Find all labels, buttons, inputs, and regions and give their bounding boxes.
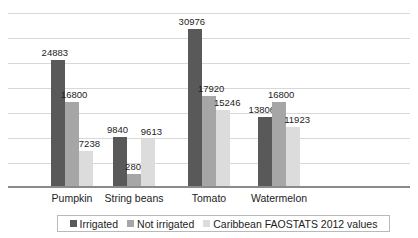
bar-group: 24883168007238 [51,8,93,188]
legend-label: Not irrigated [137,218,194,230]
category-axis-labels: PumpkinString beansTomatoWatermelon [8,191,410,207]
plot-area: 2488316800723898402800961330976179201524… [8,8,410,188]
legend-swatch-icon [70,220,77,227]
bar: 11923 [286,127,300,188]
bar-value-label: 16800 [61,90,87,100]
x-axis-line [8,186,410,188]
bar: 17920 [202,96,216,188]
bar: 15246 [216,110,230,188]
legend-item[interactable]: Irrigated [70,218,119,230]
bar-value-label: 9840 [107,125,128,135]
bar-value-label: 15246 [214,98,240,108]
bar-value-label: 11923 [284,115,310,125]
bar: 13806 [258,117,272,188]
legend-label: Caribbean FAOSTATS 2012 values [213,218,377,230]
legend-swatch-icon [203,220,210,227]
bar-groups: 2488316800723898402800961330976179201524… [8,8,410,188]
legend-item[interactable]: Caribbean FAOSTATS 2012 values [203,218,377,230]
bar-group: 309761792015246 [188,8,230,188]
legend-item[interactable]: Not irrigated [127,218,194,230]
bar-value-label: 9613 [141,127,162,137]
chart-legend: IrrigatedNot irrigatedCaribbean FAOSTATS… [57,215,390,232]
bar-chart: 2488316800723898402800961330976179201524… [0,0,418,238]
bar-value-label: 24883 [42,48,68,58]
bar-value-label: 30976 [179,17,205,27]
bar-group: 138061680011923 [258,8,300,188]
bar-group: 984028009613 [113,8,155,188]
legend-label: Irrigated [80,218,119,230]
bar: 9613 [141,139,155,188]
bar: 30976 [188,29,202,188]
bar-value-label: 7238 [79,139,100,149]
bar: 24883 [51,60,65,188]
bar: 16800 [65,102,79,188]
bar: 7238 [79,151,93,188]
category-label: Watermelon [233,191,325,205]
bar-value-label: 16800 [268,90,294,100]
legend-swatch-icon [127,220,134,227]
bar-value-label: 17920 [198,84,224,94]
